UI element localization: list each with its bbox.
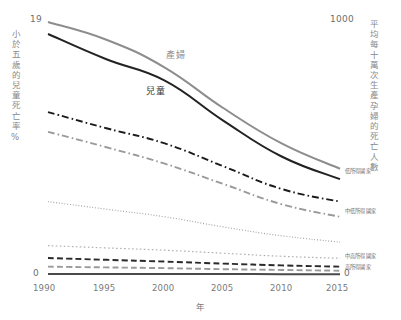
x-axis-label: 年 xyxy=(196,300,205,312)
xtick-2000: 2000 xyxy=(152,283,174,293)
right-series-label-lower-middle-income: 中低所得國家 xyxy=(345,207,376,214)
series-label-maternal: 產婦 xyxy=(166,48,185,61)
right-series-label-low-income: 低所得國家 xyxy=(345,167,371,174)
series-line-dashed-gray-low xyxy=(48,267,340,271)
right-series-label-upper-middle-income: 中高所得國家 xyxy=(345,252,376,259)
xtick-2015: 2015 xyxy=(326,283,348,293)
xtick-2010: 2010 xyxy=(270,283,292,293)
xtick-2005: 2005 xyxy=(211,283,233,293)
series-line-兒童 xyxy=(48,34,340,179)
series-label-child: 兒童 xyxy=(146,84,165,97)
series-line-中低所得國家 xyxy=(48,132,340,217)
xtick-1995: 1995 xyxy=(93,283,115,293)
series-line-產婦 xyxy=(48,22,340,169)
series-line-高所得國家 xyxy=(48,246,340,259)
series-line-低所得國家 xyxy=(48,112,340,202)
series-line-dashed-dark-low xyxy=(48,258,340,267)
chart-container: 19 0 1000 小於五歲的兒童死亡率% 平均每十萬次生產孕婦的死亡人數 產婦… xyxy=(0,0,401,320)
plot-area xyxy=(0,0,401,320)
xtick-1990: 1990 xyxy=(33,283,55,293)
right-axis-min-tick: 0 xyxy=(344,268,350,278)
